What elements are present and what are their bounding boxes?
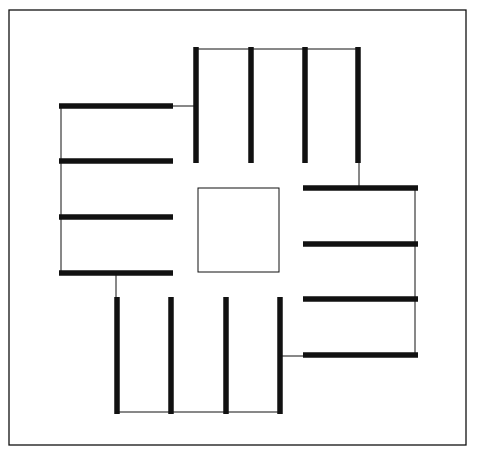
- outer-frame: [9, 10, 466, 445]
- center-square: [198, 188, 279, 272]
- diagram-canvas: [0, 0, 479, 455]
